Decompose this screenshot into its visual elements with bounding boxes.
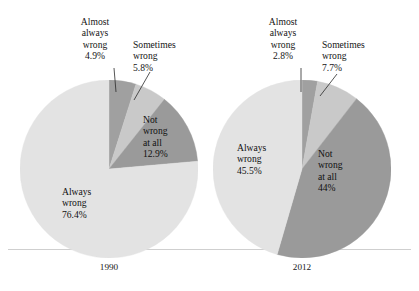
callout-value: 2.8% xyxy=(250,50,316,61)
slice-label-line-1: Not xyxy=(318,148,343,159)
pie-chart-figure: Almost always wrong 4.9% Sometimes wrong… xyxy=(0,0,419,291)
callout-value: 7.7% xyxy=(322,62,365,73)
slice-label-line-1: Always xyxy=(237,142,266,153)
slice-label-line-2: wrong xyxy=(318,159,343,170)
slice-label-line-2: wrong xyxy=(237,153,266,164)
slice-label-always-wrong-2012: Always wrong 45.5% xyxy=(237,142,266,176)
callout-line-2: wrong xyxy=(322,50,365,61)
callout-line-1: Sometimes xyxy=(322,39,365,50)
callout-line-3: wrong xyxy=(250,39,316,50)
callout-sometimes-wrong-2012: Sometimes wrong 7.7% xyxy=(322,39,365,73)
leader-line-sometimes-2012 xyxy=(320,74,337,96)
callout-line-1: Almost xyxy=(250,16,316,27)
callout-line-2: always xyxy=(250,27,316,38)
slice-label-line-3: at all xyxy=(318,171,343,182)
slice-label-value: 44% xyxy=(318,182,343,193)
callout-almost-always-wrong-2012: Almost always wrong 2.8% xyxy=(250,16,316,62)
slice-label-not-wrong-at-all-2012: Not wrong at all 44% xyxy=(318,148,343,194)
year-label-2012: 2012 xyxy=(272,262,332,273)
slice-label-value: 45.5% xyxy=(237,165,266,176)
